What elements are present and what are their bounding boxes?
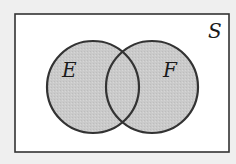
venn-diagram-canvas: E F S — [0, 0, 236, 164]
venn-diagram: E F S — [0, 0, 236, 164]
union-shaded-region — [47, 41, 198, 133]
universe-label: S — [208, 19, 222, 43]
set-f-label: F — [162, 58, 178, 82]
set-e-label: E — [61, 58, 77, 82]
